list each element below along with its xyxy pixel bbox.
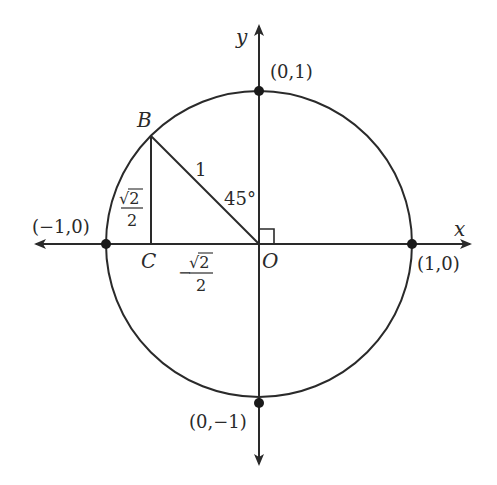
point-right [407,239,417,249]
label-bottom: (0,−1) [189,411,247,432]
right-angle-marker [259,229,274,244]
point-bottom [254,398,264,408]
label-hypotenuse: 1 [195,159,206,180]
vertical-leg-numerator: √2 [119,189,139,208]
label-C: C [141,249,156,273]
point-top [254,86,264,96]
label-right: (1,0) [417,253,460,274]
label-O: O [262,249,278,273]
vertical-leg-denominator: 2 [127,211,137,230]
label-angle: 45° [224,188,256,209]
x-axis-label: x [454,217,465,241]
y-axis-label: y [235,25,248,49]
horizontal-leg-denominator: 2 [196,276,206,295]
unit-circle-diagram: x y (0,1) (0,−1) (−1,0) (1,0) B C O 1 45… [0,0,497,485]
horizontal-leg-numerator: √2 [189,253,209,272]
point-left [101,239,111,249]
label-B: B [136,108,152,132]
label-left: (−1,0) [32,216,90,237]
label-top: (0,1) [270,61,313,82]
